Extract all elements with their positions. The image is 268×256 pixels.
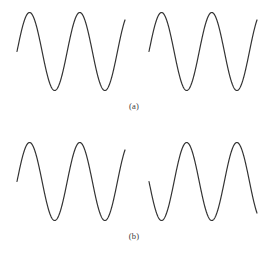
panel-caption-b: (b) bbox=[0, 232, 268, 241]
wave-plot-canvas bbox=[0, 0, 268, 256]
panel-b-wave-right bbox=[149, 143, 257, 221]
panel-a-wave-right bbox=[149, 13, 257, 91]
wave-figure: (a) (b) bbox=[0, 0, 268, 256]
panel-b-wave-left bbox=[17, 143, 125, 221]
panel-caption-a: (a) bbox=[0, 102, 268, 111]
panel-a-wave-left bbox=[17, 13, 125, 91]
wave-trace-group bbox=[17, 13, 257, 221]
